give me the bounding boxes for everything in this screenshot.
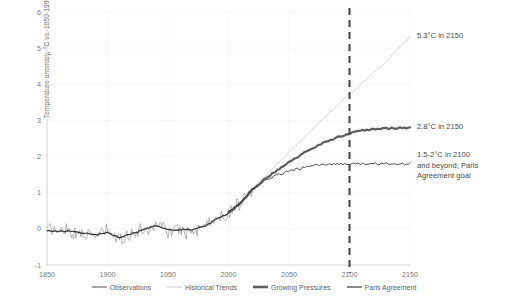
paris-agreement-annotation: 1.5-2°C in 2100 and beyond, Paris Agreem… [417, 150, 478, 182]
legend-line-swatch [253, 283, 268, 291]
y-tick-label: 4 [37, 80, 41, 89]
legend-line-swatch [92, 283, 107, 291]
legend-label: Growing Pressures [271, 284, 331, 291]
y-tick-label: 1 [37, 188, 41, 197]
x-tick-label: 1950 [160, 270, 176, 279]
x-tick-label: 2150 [402, 270, 418, 279]
series-observations-smoothed [47, 190, 252, 238]
x-tick-label: 2000 [221, 270, 237, 279]
legend-line-swatch [347, 283, 362, 291]
legend-label: Observations [110, 284, 151, 291]
x-tick-label: 1850 [39, 270, 55, 279]
legend-label: Paris Agreement [365, 284, 417, 291]
legend-item-historical-trends[interactable]: Historical Trends [167, 283, 237, 291]
legend-item-growing-pressures[interactable]: Growing Pressures [253, 283, 331, 291]
chart-legend: ObservationsHistorical TrendsGrowing Pre… [0, 283, 508, 291]
y-tick-label: 6 [37, 8, 41, 17]
y-tick-label: -1 [35, 261, 41, 270]
legend-label: Historical Trends [185, 284, 237, 291]
historical-trends-annotation: 5.3°C in 2150 [417, 31, 463, 42]
legend-item-observations[interactable]: Observations [92, 283, 151, 291]
y-tick-label: 2 [37, 152, 41, 161]
series-growing-pressures [229, 127, 411, 212]
legend-line-swatch [167, 283, 182, 291]
y-tick-label: 3 [37, 116, 41, 125]
x-tick-label: 2100 [342, 270, 358, 279]
x-tick-label: 2050 [281, 270, 297, 279]
y-tick-label: 0 [37, 224, 41, 233]
growing-pressures-annotation: 2.8°C in 2150 [417, 122, 463, 133]
y-tick-label: 5 [37, 44, 41, 53]
temperature-projection-chart: Temperature anomaly, °C vs. 1850-1900 -1… [0, 0, 508, 304]
legend-item-paris-agreement[interactable]: Paris Agreement [347, 283, 417, 291]
x-tick-label: 1900 [100, 270, 116, 279]
